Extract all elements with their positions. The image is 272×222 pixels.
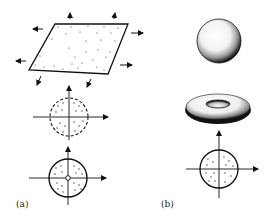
panel-a-label: (a) (16, 199, 28, 209)
dashed-disk (33, 86, 108, 140)
panel-b-label: (b) (161, 199, 174, 209)
sphere (197, 19, 241, 63)
center-marker (66, 176, 71, 181)
diagram-svg (0, 0, 272, 222)
stretched-sheet (16, 13, 143, 87)
torus (185, 94, 251, 124)
solid-disk-a (29, 147, 106, 205)
figure: (a) (b) (0, 0, 272, 222)
solid-disk-b (186, 131, 258, 198)
